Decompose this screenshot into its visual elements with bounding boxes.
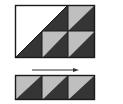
bottom-strip	[15, 75, 95, 100]
quilt-diagram	[0, 0, 123, 104]
arrow-right-icon	[32, 68, 79, 72]
top-block	[15, 5, 95, 58]
